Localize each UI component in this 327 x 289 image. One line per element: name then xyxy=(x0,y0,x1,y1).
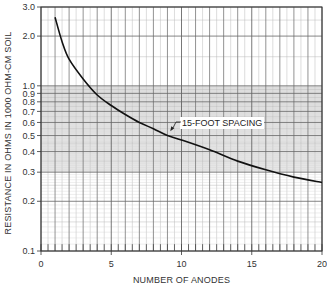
x-axis-title: NUMBER OF ANODES xyxy=(133,275,230,285)
x-tick-label: 10 xyxy=(176,259,186,269)
y-axis-title: RESISTANCE IN OHMS IN 1000 OHM-CM SOIL xyxy=(3,32,13,235)
y-tick-label: 3.0 xyxy=(22,2,35,12)
y-tick-label: 0.5 xyxy=(22,131,35,141)
y-tick-label: 2.0 xyxy=(22,31,35,41)
y-tick-label: 0.2 xyxy=(22,196,35,206)
x-tick-label: 5 xyxy=(109,259,114,269)
y-tick-label: 0.8 xyxy=(22,97,35,107)
y-tick-label: 0.4 xyxy=(22,147,35,157)
y-axis-ticks: 3.02.01.00.90.80.70.60.50.40.30.20.1 xyxy=(22,2,41,256)
resistance-chart: 3.02.01.00.90.80.70.60.50.40.30.20.1 051… xyxy=(0,0,327,289)
x-axis-ticks: 05101520 xyxy=(38,251,327,269)
y-tick-label: 0.6 xyxy=(22,118,35,128)
y-tick-label: 0.7 xyxy=(22,107,35,117)
x-tick-label: 20 xyxy=(317,259,327,269)
y-tick-label: 0.1 xyxy=(22,246,35,256)
x-tick-label: 15 xyxy=(247,259,257,269)
annotation-label: 15-FOOT SPACING xyxy=(182,118,262,128)
x-tick-label: 0 xyxy=(38,259,43,269)
y-tick-label: 0.3 xyxy=(22,167,35,177)
